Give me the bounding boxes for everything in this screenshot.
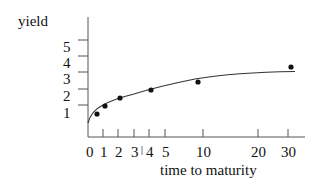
- x-tick-label: 2: [115, 144, 123, 160]
- data-point: [195, 79, 200, 84]
- y-axis-label: yield: [18, 13, 48, 29]
- x-tick-label: 1: [100, 144, 108, 160]
- data-point: [288, 64, 293, 69]
- x-tick-label: 3: [131, 144, 139, 160]
- x-tick-labels: 0 1 2 3 4 5 10 20 30: [86, 144, 296, 160]
- yield-curve-chart: yield 1 2 3 4 5 0 1 2 3 4 5 10 20: [0, 0, 320, 185]
- data-point: [117, 95, 122, 100]
- y-ticks: [78, 40, 88, 105]
- x-tick-label: 20: [251, 144, 266, 160]
- x-tick-label: 5: [162, 144, 170, 160]
- y-tick-label: 2: [63, 88, 71, 104]
- x-axis-label: time to maturity: [160, 162, 257, 178]
- y-tick-label: 5: [63, 39, 71, 55]
- y-tick-labels: 1 2 3 4 5: [63, 39, 71, 121]
- x-tick-label: 0: [86, 144, 94, 160]
- y-tick-label: 1: [63, 105, 71, 121]
- data-point: [102, 103, 107, 108]
- x-tick-label: 30: [281, 144, 296, 160]
- y-tick-label: 3: [63, 71, 71, 87]
- x-tick-label: 4: [146, 144, 154, 160]
- data-point: [148, 87, 153, 92]
- data-point: [94, 111, 99, 116]
- y-tick-label: 4: [63, 55, 71, 71]
- x-tick-label: 10: [196, 144, 211, 160]
